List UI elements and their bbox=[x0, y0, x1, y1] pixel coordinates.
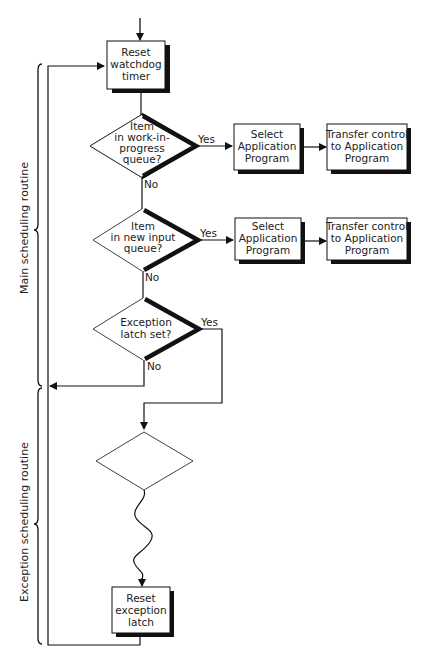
no-label-2: No bbox=[145, 271, 159, 283]
yes-label-1: Yes bbox=[197, 133, 215, 145]
no-label-1: No bbox=[144, 178, 158, 190]
select-application-box-1: SelectApplicationProgram bbox=[234, 124, 304, 174]
select-application-box-2: SelectApplicationProgram bbox=[235, 218, 305, 264]
decision-new-input: Itemin new inputqueue? bbox=[93, 209, 198, 271]
decision-work-in-progress: Itemin work-in-progressqueue? bbox=[90, 115, 196, 177]
reset-exception-latch-box: Resetexceptionlatch bbox=[112, 587, 174, 637]
transfer-control-box-1: Transfer controlto ApplicationProgram bbox=[325, 124, 411, 174]
no-label-3: No bbox=[147, 360, 161, 372]
flowchart: Resetwatchdogtimer Itemin work-in-progre… bbox=[0, 0, 427, 661]
node-text: Reset bbox=[121, 46, 150, 58]
decision-exception-latch: Exceptionlatch set? bbox=[93, 298, 199, 360]
main-routine-brace bbox=[34, 64, 42, 386]
reset-watchdog-box: Resetwatchdogtimer bbox=[107, 41, 170, 93]
yes-label-3: Yes bbox=[200, 316, 218, 328]
yes-label-2: Yes bbox=[199, 227, 217, 239]
decision-empty bbox=[96, 432, 193, 490]
main-routine-label: Main scheduling routine bbox=[18, 162, 31, 294]
wavy-connector bbox=[134, 490, 153, 580]
exception-routine-brace bbox=[34, 388, 42, 644]
exception-routine-label: Exception scheduling routine bbox=[18, 442, 31, 602]
transfer-control-box-2: Transfer controlto ApplicationProgram bbox=[325, 218, 411, 264]
svg-text:Exceptionlatch set?: Exceptionlatch set? bbox=[120, 316, 172, 340]
